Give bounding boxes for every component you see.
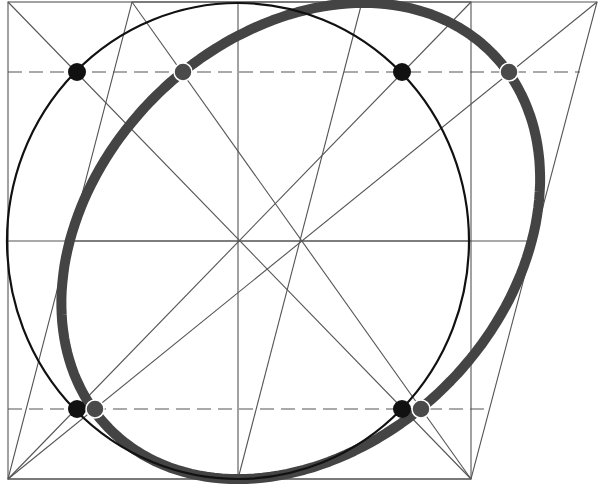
geometric-diagram xyxy=(0,0,603,486)
diagram-canvas xyxy=(0,0,603,486)
black-point-2 xyxy=(393,63,411,81)
gray-point-1 xyxy=(174,63,192,81)
black-point-1 xyxy=(68,63,86,81)
gray-point-2 xyxy=(500,63,518,81)
black-point-4 xyxy=(393,400,411,418)
black-point-3 xyxy=(68,400,86,418)
gray-point-4 xyxy=(412,400,430,418)
gray-point-3 xyxy=(86,400,104,418)
